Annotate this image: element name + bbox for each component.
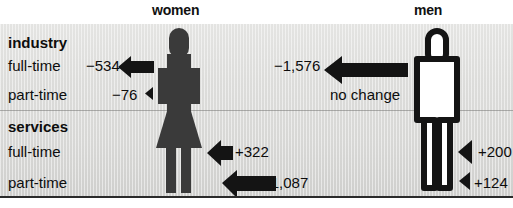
man-pictogram: [408, 28, 466, 193]
row-label-industry-fulltime: full-time: [8, 57, 61, 74]
infographic-chart: women men industry full-time part-time s…: [0, 0, 513, 208]
value-women-services-fulltime: +322: [235, 143, 269, 160]
left-arrow-icon-women-industry-fulltime: [118, 56, 154, 78]
woman-pictogram: [150, 28, 208, 193]
value-women-industry-fulltime: −534: [86, 57, 120, 74]
row-label-services-parttime: part-time: [8, 174, 67, 191]
row-header-services: services: [8, 118, 68, 135]
row-label-industry-parttime: part-time: [8, 86, 67, 103]
value-men-services-fulltime: +200: [478, 143, 512, 160]
value-men-industry-fulltime: −1,576: [274, 57, 320, 74]
caption-men: men: [414, 2, 442, 18]
left-arrow-icon-men-industry-fulltime: [324, 56, 408, 84]
chart-panel: industry full-time part-time services fu…: [0, 24, 513, 198]
left-arrow-icon-women-services-parttime: [222, 170, 276, 198]
value-men-industry-parttime: no change: [330, 86, 400, 103]
caption-women: women: [152, 2, 199, 18]
value-women-industry-parttime: −76: [112, 86, 137, 103]
row-label-services-fulltime: full-time: [8, 143, 61, 160]
left-arrow-icon-women-services-fulltime: [207, 140, 233, 166]
row-header-industry: industry: [8, 34, 67, 51]
value-men-services-parttime: +124: [474, 174, 508, 191]
